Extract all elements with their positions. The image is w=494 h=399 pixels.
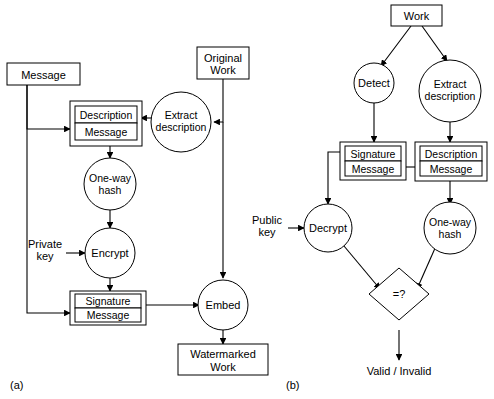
- node-description-message-b[interactable]: Description Message: [415, 142, 487, 181]
- label-private-key: Private key: [28, 238, 62, 262]
- node-message-a[interactable]: Message: [7, 63, 80, 85]
- edge-message-to-signature-message: [27, 85, 70, 313]
- node-extract-description-a-label-line1: Extract: [165, 109, 198, 121]
- node-one-way-hash-a-label-line1: One-way: [89, 172, 132, 184]
- node-watermarked-work-label-line2: Work: [210, 361, 236, 373]
- node-work-label: Work: [404, 10, 430, 22]
- node-extract-description-b[interactable]: Extract description: [419, 60, 481, 122]
- edge-message-to-description-message: [27, 85, 70, 129]
- node-one-way-hash-a[interactable]: One-way hash: [84, 158, 136, 210]
- node-signature-message-a[interactable]: Signature Message: [70, 291, 146, 325]
- node-one-way-hash-b-label-line2: hash: [439, 228, 462, 240]
- node-signature-message-a-label-bottom: Message: [87, 309, 130, 321]
- node-watermarked-work-label-line1: Watermarked: [190, 348, 256, 360]
- node-embed[interactable]: Embed: [198, 280, 248, 330]
- node-description-message-a[interactable]: Description Message: [70, 101, 142, 146]
- label-private-key-line1: Private: [28, 238, 62, 250]
- node-signature-message-b-label-top: Signature: [351, 148, 396, 160]
- node-compare-label: =?: [393, 288, 406, 300]
- node-decrypt[interactable]: Decrypt: [304, 204, 352, 252]
- node-message-a-label: Message: [21, 69, 66, 81]
- node-description-message-a-label-top: Description: [80, 109, 133, 121]
- flowchart-svg: Message Original Work Extract descriptio…: [0, 0, 494, 399]
- node-compare-decision[interactable]: =?: [369, 268, 429, 320]
- node-encrypt[interactable]: Encrypt: [85, 228, 135, 278]
- node-original-work-label-line2: Work: [210, 64, 236, 76]
- node-extract-description-b-label-line2: description: [425, 90, 476, 102]
- node-encrypt-label: Encrypt: [91, 247, 128, 259]
- node-signature-message-a-label-top: Signature: [86, 295, 131, 307]
- label-public-key-line1: Public: [252, 214, 282, 226]
- figure-container: Message Original Work Extract descriptio…: [0, 0, 494, 399]
- node-signature-message-b[interactable]: Signature Message: [340, 142, 406, 180]
- node-detect-label: Detect: [358, 77, 390, 89]
- label-private-key-line2: key: [36, 250, 54, 262]
- node-description-message-b-label-top: Description: [425, 148, 478, 160]
- node-embed-label: Embed: [206, 299, 241, 311]
- edge-one-way-hash-to-compare: [417, 246, 436, 289]
- node-extract-description-a-label-line2: description: [156, 121, 207, 133]
- edge-work-to-detect: [381, 26, 411, 66]
- node-original-work-label-line1: Original: [204, 52, 242, 64]
- label-public-key: Public key: [252, 214, 282, 238]
- panel-caption-b: (b): [286, 379, 299, 391]
- panel-caption-a: (a): [10, 379, 23, 391]
- node-watermarked-work[interactable]: Watermarked Work: [178, 344, 268, 375]
- node-work[interactable]: Work: [391, 5, 442, 26]
- node-description-message-a-label-bottom: Message: [85, 126, 128, 138]
- label-valid-invalid: Valid / Invalid: [367, 365, 432, 377]
- node-one-way-hash-b[interactable]: One-way hash: [424, 202, 476, 254]
- node-original-work[interactable]: Original Work: [197, 47, 249, 79]
- edge-work-to-extract-description: [422, 26, 447, 61]
- node-detect[interactable]: Detect: [354, 63, 394, 103]
- node-one-way-hash-b-label-line1: One-way: [429, 216, 472, 228]
- node-extract-description-b-label-line1: Extract: [434, 78, 467, 90]
- node-description-message-b-label-bottom: Message: [430, 163, 473, 175]
- node-one-way-hash-a-label-line2: hash: [99, 184, 122, 196]
- node-decrypt-label: Decrypt: [309, 222, 347, 234]
- label-public-key-line2: key: [258, 226, 276, 238]
- node-signature-message-b-label-bottom: Message: [352, 163, 395, 175]
- edge-decrypt-to-compare: [344, 246, 380, 289]
- node-extract-description-a[interactable]: Extract description: [151, 92, 211, 152]
- edge-original-work-to-extract-description: [214, 79, 223, 122]
